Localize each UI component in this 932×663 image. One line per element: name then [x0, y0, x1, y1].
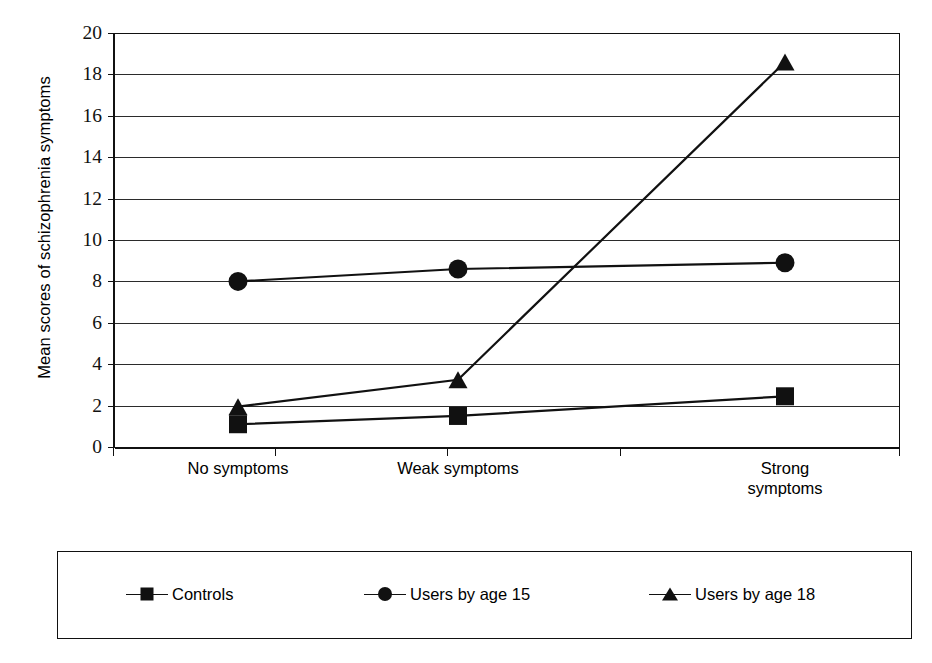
y-tick-label: 18: [83, 63, 103, 85]
legend-symbol: [141, 588, 154, 601]
gridline: [115, 74, 899, 75]
legend-label: Users by age 18: [694, 585, 815, 604]
y-tick-label: 14: [83, 146, 103, 168]
y-tick-mark: [108, 157, 115, 158]
y-tick-label: 4: [92, 353, 102, 375]
x-category-label-line: No symptoms: [128, 458, 348, 478]
gridline: [115, 157, 899, 158]
y-tick-mark: [108, 33, 115, 34]
x-category-label: Strongsymptoms: [675, 458, 895, 498]
y-tick-mark: [108, 116, 115, 117]
x-category-label-line: Weak symptoms: [348, 458, 568, 478]
legend-item[interactable]: Controls: [126, 583, 233, 605]
legend: ControlsUsers by age 15Users by age 18: [57, 551, 912, 639]
y-axis-title: Mean scores of schizophrenia symptoms: [35, 8, 54, 448]
gridline: [115, 199, 899, 200]
circle-marker-icon: [364, 583, 406, 605]
y-tick-label: 10: [83, 229, 103, 251]
legend-label: Controls: [171, 585, 233, 604]
legend-item[interactable]: Users by age 15: [364, 583, 530, 605]
legend-symbol: [662, 588, 678, 601]
y-tick-label: 12: [83, 188, 103, 210]
x-category-label-line: Strong: [675, 458, 895, 478]
x-tick-mark: [620, 447, 621, 456]
legend-symbol: [378, 587, 392, 601]
y-tick-label: 6: [92, 312, 102, 334]
y-tick-mark: [108, 74, 115, 75]
y-tick-label: 2: [92, 395, 102, 417]
y-tick-mark: [108, 281, 115, 282]
gridline: [115, 364, 899, 365]
y-tick-label: 8: [92, 270, 102, 292]
x-tick-mark: [275, 447, 276, 456]
gridline: [115, 447, 899, 449]
y-tick-label: 16: [83, 105, 103, 127]
x-tick-mark: [113, 447, 114, 456]
y-tick-mark: [108, 323, 115, 324]
x-tick-mark: [447, 447, 448, 456]
gridline: [115, 406, 899, 407]
gridline: [115, 281, 899, 282]
y-tick-mark: [108, 199, 115, 200]
plot-area: 02468101214161820: [113, 33, 900, 447]
y-tick-label: 20: [83, 22, 103, 44]
y-tick-mark: [108, 406, 115, 407]
legend-label: Users by age 15: [409, 585, 530, 604]
y-tick-label: 0: [92, 436, 102, 458]
gridline: [115, 240, 899, 241]
gridline: [115, 116, 899, 117]
x-category-label-line: symptoms: [675, 478, 895, 498]
gridline: [115, 33, 899, 34]
y-tick-mark: [108, 364, 115, 365]
triangle-marker-icon: [649, 583, 691, 605]
x-category-label: No symptoms: [128, 458, 348, 478]
legend-item[interactable]: Users by age 18: [649, 583, 815, 605]
x-category-label: Weak symptoms: [348, 458, 568, 478]
x-tick-mark: [899, 447, 900, 456]
y-tick-mark: [108, 240, 115, 241]
square-marker-icon: [126, 583, 168, 605]
chart-figure: Mean scores of schizophrenia symptoms 02…: [0, 0, 932, 663]
gridline: [115, 323, 899, 324]
